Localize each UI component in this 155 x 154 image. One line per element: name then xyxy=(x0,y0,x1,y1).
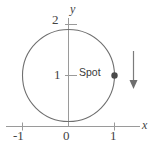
math-figure: 2 1 0 -1 1 y x Spot xyxy=(0,0,155,154)
spot-point-marker xyxy=(111,72,117,78)
x-tick-label-0: 0 xyxy=(63,129,70,142)
y-axis-label: y xyxy=(70,3,75,15)
x-axis-label: x xyxy=(142,119,147,131)
x-tick-label-1: 1 xyxy=(110,129,117,142)
rotation-arrow-head xyxy=(130,80,138,89)
y-tick-label-1: 1 xyxy=(54,68,61,81)
x-tick-label-neg-1: -1 xyxy=(13,129,24,142)
spot-point-label: Spot xyxy=(79,67,101,78)
y-tick-label-2: 2 xyxy=(52,13,59,26)
